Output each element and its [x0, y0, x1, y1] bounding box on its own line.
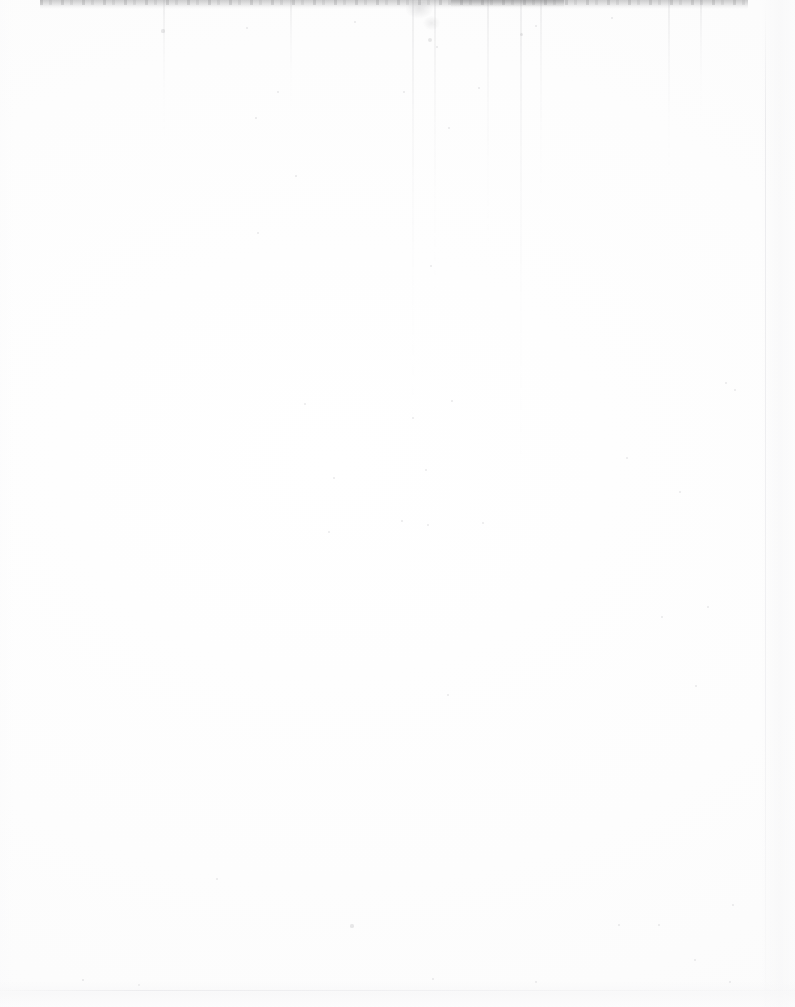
dust-speck	[447, 694, 449, 696]
scanner-streak	[700, 0, 702, 120]
dust-speck	[161, 29, 164, 32]
dust-speck	[432, 978, 434, 980]
top-dust-smudge	[403, 2, 449, 36]
scanner-streak	[668, 0, 670, 180]
dust-speck	[277, 91, 279, 93]
dust-speck	[350, 924, 353, 927]
dust-speck	[618, 924, 620, 926]
dust-speck	[626, 457, 628, 459]
dust-speck	[412, 417, 414, 419]
dust-speck	[295, 175, 297, 177]
bottom-page-edge-shadow	[0, 981, 795, 1007]
dust-speck	[520, 33, 523, 36]
scanner-streak	[163, 0, 165, 140]
bottom-page-edge-line	[0, 990, 795, 991]
scanner-streak	[290, 0, 292, 110]
dust-speck	[425, 469, 427, 471]
scanner-streak-layer	[0, 0, 795, 620]
left-page-edge	[0, 0, 14, 1007]
dust-speck	[661, 616, 663, 618]
top-edge-shadow-band	[40, 0, 748, 9]
dust-speck	[428, 38, 432, 42]
scanner-streak	[487, 0, 489, 250]
dust-speck	[257, 232, 259, 234]
dust-speck	[403, 91, 405, 93]
dust-speck	[451, 400, 453, 402]
dust-speck	[482, 522, 484, 524]
dust-speck	[304, 403, 306, 405]
dust-speck	[734, 389, 736, 391]
dust-speck	[255, 117, 257, 119]
right-page-edge-shadow	[761, 0, 795, 1007]
scanner-streak	[412, 0, 414, 430]
dust-speck	[401, 520, 403, 522]
scanner-streak	[434, 0, 436, 300]
right-page-edge-line	[765, 0, 766, 1007]
dust-speck	[694, 959, 696, 961]
scanner-streak	[520, 0, 522, 470]
scanner-streak	[540, 0, 542, 210]
dust-speck	[427, 524, 429, 526]
dust-speck	[328, 531, 330, 533]
scanned-page: Blank scanned page: near-white paper wit…	[0, 0, 795, 1007]
